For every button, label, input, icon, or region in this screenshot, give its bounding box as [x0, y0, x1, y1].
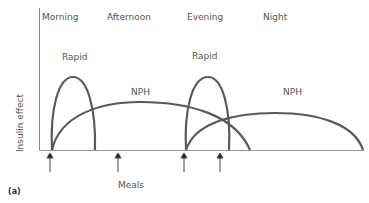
meal-arrow-3	[181, 153, 187, 172]
meal-arrow-1	[47, 153, 53, 172]
rapid-curve-1	[52, 77, 95, 150]
nph-curve-1	[52, 102, 250, 150]
meal-arrows	[47, 153, 223, 172]
insulin-diagram	[0, 0, 369, 203]
nph-curve-2	[186, 113, 363, 150]
meal-arrow-2	[115, 153, 121, 172]
meal-arrow-4	[217, 153, 223, 172]
